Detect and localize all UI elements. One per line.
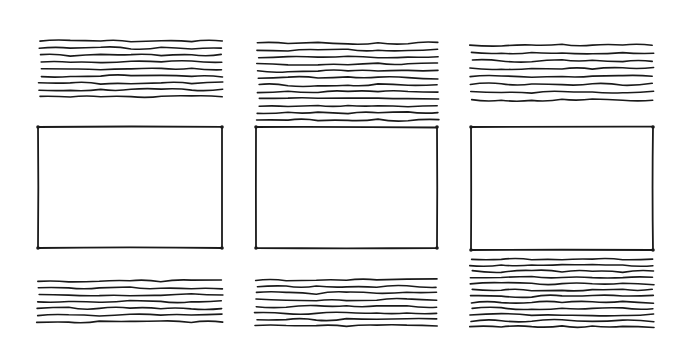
- text-line: [41, 61, 222, 63]
- text-line: [257, 112, 438, 114]
- text-line: [40, 40, 222, 42]
- text-line: [38, 314, 222, 316]
- text-line: [470, 277, 652, 278]
- text-line: [472, 258, 653, 259]
- bottom-text-block: [37, 280, 223, 323]
- text-line: [256, 298, 437, 300]
- image-frame: [256, 127, 437, 249]
- text-line: [40, 96, 222, 98]
- layout-panel-3: [469, 44, 655, 327]
- layout-panel-1: [36, 40, 224, 323]
- top-text-block: [39, 40, 223, 97]
- text-line: [470, 314, 654, 316]
- text-line: [471, 301, 653, 303]
- text-line: [471, 319, 654, 321]
- text-line: [471, 295, 654, 297]
- frame-corner-dot: [651, 248, 655, 252]
- text-line: [256, 306, 436, 308]
- text-line: [259, 106, 437, 107]
- text-line: [257, 91, 438, 93]
- text-line: [38, 301, 222, 303]
- image-frame: [38, 127, 222, 248]
- top-text-block: [257, 42, 439, 121]
- text-line: [470, 68, 654, 70]
- text-line: [38, 280, 222, 282]
- text-line: [258, 70, 438, 72]
- text-line: [41, 68, 221, 70]
- text-line: [255, 312, 437, 314]
- text-line: [41, 75, 222, 77]
- text-line: [257, 319, 437, 321]
- text-line: [472, 270, 653, 272]
- frame-corner-dot: [469, 248, 473, 252]
- bottom-text-block: [470, 258, 654, 327]
- text-line: [259, 56, 438, 58]
- text-line: [256, 292, 436, 294]
- text-line: [257, 286, 436, 288]
- frame-corner-dot: [469, 125, 473, 129]
- text-line: [470, 283, 654, 285]
- text-line: [257, 119, 439, 121]
- top-text-block: [470, 44, 654, 101]
- text-line: [470, 326, 654, 328]
- bottom-text-block: [255, 279, 438, 327]
- frame-corner-dot: [220, 125, 224, 129]
- text-line: [257, 49, 438, 51]
- text-line: [38, 287, 222, 289]
- layout-panel-2: [254, 42, 439, 326]
- frame-corner-dot: [435, 246, 439, 250]
- frame-corner-dot: [36, 125, 40, 129]
- text-line: [37, 307, 221, 309]
- text-line: [470, 265, 653, 267]
- frame-corner-dot: [651, 125, 655, 129]
- text-line: [471, 91, 654, 93]
- frame-corner-dot: [435, 125, 439, 129]
- text-line: [472, 289, 652, 291]
- frame-corner-dot: [36, 246, 40, 250]
- text-line: [255, 325, 437, 327]
- text-line: [472, 60, 652, 63]
- text-line: [470, 44, 652, 46]
- text-line: [258, 77, 438, 79]
- text-line: [256, 279, 437, 281]
- text-line: [39, 47, 221, 49]
- text-line: [259, 84, 437, 87]
- frame-corner-dot: [254, 246, 258, 250]
- text-line: [257, 63, 438, 65]
- text-line: [39, 294, 223, 296]
- text-line: [39, 89, 223, 91]
- text-line: [470, 83, 652, 85]
- text-line: [257, 42, 437, 44]
- image-frame: [471, 127, 653, 250]
- text-line: [472, 99, 653, 101]
- text-line: [259, 98, 438, 99]
- frame-corner-dot: [254, 125, 258, 129]
- text-line: [39, 82, 223, 84]
- text-line: [470, 75, 652, 77]
- text-line: [41, 54, 222, 56]
- text-line: [37, 321, 223, 323]
- text-line: [472, 307, 653, 309]
- frame-corner-dot: [220, 246, 224, 250]
- text-line: [471, 52, 653, 53]
- layout-sketch-diagram: [0, 0, 687, 356]
